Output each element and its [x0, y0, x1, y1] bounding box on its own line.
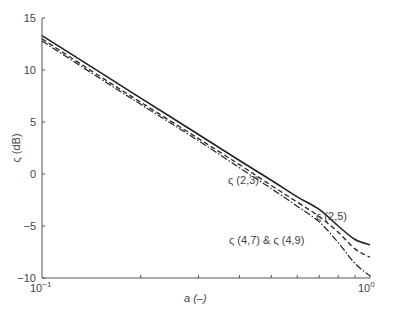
y-tick-label: 10 [24, 64, 36, 76]
y-tick-label: 0 [30, 168, 36, 180]
series-line-1 [42, 39, 370, 257]
curves [42, 36, 370, 276]
chart: −10−5051015 ς (2,3) ς (2,5) ς (4,7) & ς … [0, 0, 393, 324]
x-tick-label-0: 10−1 [30, 280, 52, 294]
y-axis-label: ς (dB) [10, 133, 22, 162]
series-line-2 [42, 41, 370, 276]
y-tick-label: −5 [23, 220, 36, 232]
x-tick-label-1: 100 [358, 280, 375, 294]
annotation-2-5: ς (2,5) [316, 210, 347, 222]
annotation-2-3: ς (2,3) [228, 174, 259, 186]
y-tick-label: 5 [30, 116, 36, 128]
annotation-4-7-4-9: ς (4,7) & ς (4,9) [229, 234, 304, 246]
y-tick-label: 15 [24, 12, 36, 24]
x-axis-label: a (–) [184, 292, 207, 304]
